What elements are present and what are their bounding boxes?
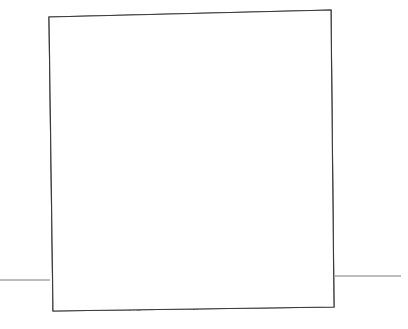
drawing-canvas — [0, 0, 408, 329]
panel-sketch-svg — [0, 0, 408, 329]
panel-outline-overlay — [49, 10, 334, 311]
